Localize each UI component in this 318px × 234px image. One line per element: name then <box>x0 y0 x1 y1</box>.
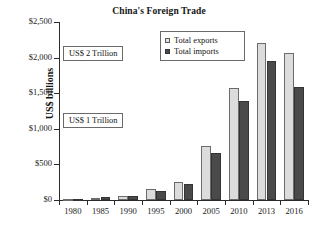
bar-imports-1980 <box>73 199 83 201</box>
legend-swatch-imports-icon <box>165 49 170 54</box>
bar-exports-1990 <box>118 196 128 200</box>
x-axis-tick <box>280 200 281 205</box>
y-axis-tick-label: $500 <box>0 158 52 168</box>
y-axis-tick-label: $1,000 <box>0 123 52 133</box>
x-axis-tick-label: 2000 <box>169 206 199 216</box>
x-axis-tick-label: 2005 <box>196 206 226 216</box>
x-axis-tick-label: 2016 <box>279 206 309 216</box>
bar-imports-1990 <box>128 196 138 200</box>
x-axis-tick <box>253 200 254 205</box>
y-axis-tick-label: $2,000 <box>0 52 52 62</box>
bar-exports-2005 <box>201 146 211 200</box>
bar-exports-2010 <box>229 88 239 200</box>
bar-imports-2013 <box>267 61 277 200</box>
bar-imports-2016 <box>294 87 304 200</box>
y-axis-tick-label: $1,500 <box>0 87 52 97</box>
bar-imports-2010 <box>239 101 249 200</box>
bar-exports-2016 <box>284 53 294 200</box>
legend-item-exports: Total exports <box>165 35 240 46</box>
x-axis-line <box>59 200 309 201</box>
legend-item-imports: Total imports <box>165 46 240 57</box>
annotation-two-trillion: US$ 2 Trillion <box>63 46 123 61</box>
chart-container: China's Foreign Trade US$ billions $0$50… <box>0 0 318 234</box>
x-axis-tick <box>308 200 309 205</box>
bar-imports-2000 <box>184 184 194 200</box>
x-axis-tick <box>170 200 171 205</box>
y-axis-tick-label: $0 <box>0 194 52 204</box>
bar-exports-1985 <box>91 198 101 200</box>
x-axis-tick-label: 1990 <box>113 206 143 216</box>
x-axis-tick <box>225 200 226 205</box>
x-axis-tick <box>114 200 115 205</box>
bar-imports-1995 <box>156 191 166 200</box>
chart-legend: Total exports Total imports <box>160 31 245 61</box>
bar-exports-2000 <box>174 182 184 200</box>
x-axis-tick <box>197 200 198 205</box>
legend-label-imports: Total imports <box>174 47 219 56</box>
legend-swatch-exports-icon <box>165 38 170 43</box>
x-axis-tick-label: 1995 <box>141 206 171 216</box>
annotation-one-trillion: US$ 1 Trillion <box>63 113 123 128</box>
x-axis-tick <box>87 200 88 205</box>
x-axis-tick-label: 2013 <box>252 206 282 216</box>
bar-imports-2005 <box>211 153 221 200</box>
bar-imports-1985 <box>101 197 111 200</box>
bar-exports-1995 <box>146 189 156 200</box>
x-axis-tick <box>59 200 60 205</box>
x-axis-tick-label: 2010 <box>224 206 254 216</box>
x-axis-tick-label: 1980 <box>58 206 88 216</box>
chart-title: China's Foreign Trade <box>0 6 318 16</box>
bar-exports-2013 <box>257 43 267 200</box>
x-axis-tick <box>142 200 143 205</box>
x-axis-tick-label: 1985 <box>86 206 116 216</box>
legend-label-exports: Total exports <box>174 36 218 45</box>
y-axis-tick-label: $2,500 <box>0 16 52 26</box>
bar-exports-1980 <box>63 199 73 201</box>
